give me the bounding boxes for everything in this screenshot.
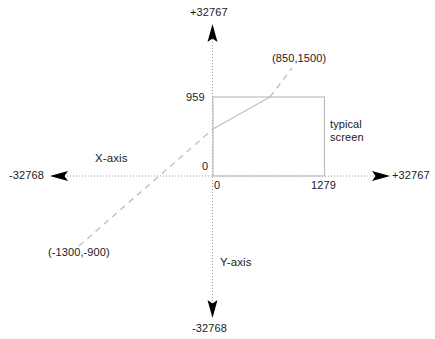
typical-screen-caption: typical screen — [330, 118, 364, 145]
x-axis-right-arrowhead — [372, 171, 390, 181]
x-axis-left-arrowhead — [50, 171, 68, 181]
y-axis-max-label: +32767 — [190, 6, 228, 19]
y-axis-min-label: -32768 — [192, 322, 227, 335]
diagonal-upper-point-label: (850,1500) — [272, 52, 326, 65]
x-axis-max-label: +32767 — [392, 169, 430, 182]
diagonal-lower-point-label: (-1300,-900) — [48, 246, 110, 259]
screen-width-label: 1279 — [311, 179, 336, 192]
diagram-canvas: +32767 -32768 -32768 +32767 X-axis Y-axi… — [0, 0, 435, 339]
screen-height-label: 959 — [186, 91, 205, 104]
y-axis-down-arrowhead — [208, 300, 218, 318]
y-axis-name-label: Y-axis — [220, 256, 252, 270]
typical-screen-rectangle — [213, 97, 325, 176]
diagram-graphics — [0, 0, 435, 339]
y-axis-origin-label: 0 — [202, 160, 208, 173]
x-axis-origin-label: 0 — [214, 179, 220, 192]
diagonal-line-upper-dashed — [270, 68, 292, 97]
x-axis-min-label: -32768 — [9, 169, 44, 182]
x-axis-name-label: X-axis — [95, 152, 128, 166]
diagonal-line-inside-screen — [213, 97, 270, 129]
diagonal-line-lower-dashed — [79, 129, 213, 246]
